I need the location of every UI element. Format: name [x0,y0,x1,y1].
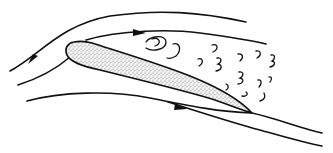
streamline-lower-inner [27,93,322,133]
airfoil-shape [66,41,252,113]
flow-arrow-icon [133,29,146,36]
eddy-icon [260,93,265,101]
eddy-icon [242,92,247,96]
eddy-icon [256,51,260,58]
airfoil-stall-diagram: Airfoil at high angle of attack with sep… [0,0,333,153]
eddy-icon [269,77,271,82]
eddy-icon [258,80,261,87]
eddy-icon [167,44,180,59]
eddy-icon [238,72,243,84]
eddy-icon [238,54,242,61]
eddy-icon [146,37,166,50]
eddy-icon [270,55,275,67]
eddy-icon [216,58,221,71]
eddy-icon [198,59,202,66]
eddy-icon [226,84,228,90]
eddy-icon [212,45,217,52]
